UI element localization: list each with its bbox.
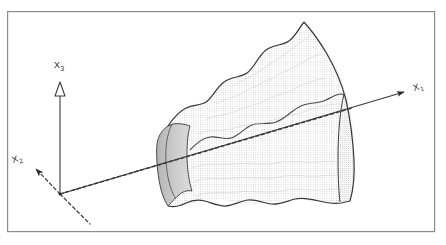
- figure-container: X3 X1 X2: [0, 0, 446, 245]
- technical-illustration: X3 X1 X2: [0, 0, 446, 245]
- axis-x3-label-subscript: 3: [61, 65, 65, 72]
- axes-origin-marker: [59, 193, 62, 196]
- axis-x3-label-text: X: [54, 60, 60, 70]
